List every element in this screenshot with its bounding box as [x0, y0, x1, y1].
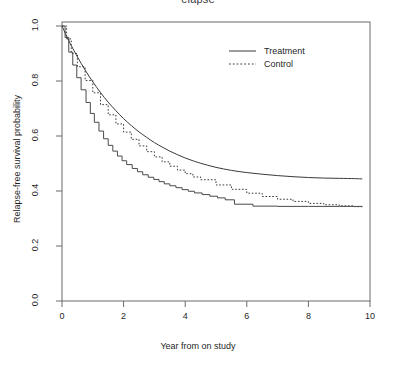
curve-control — [62, 26, 362, 207]
x-tick-label: 2 — [109, 311, 139, 321]
plot-border — [62, 22, 370, 301]
survival-plot-figure: elapse Relapse-free survival probability… — [0, 0, 396, 369]
x-tick-label: 0 — [47, 311, 77, 321]
y-axis-label: Relapse-free survival probability — [12, 59, 22, 259]
x-tick-label: 10 — [355, 311, 385, 321]
y-tick-label: 0.8 — [30, 67, 40, 93]
y-tick-label: 1.0 — [30, 12, 40, 38]
x-axis-label: Year from on study — [0, 341, 396, 351]
legend-label-control: Control — [264, 59, 293, 69]
x-tick-label: 4 — [170, 311, 200, 321]
curve-treatment — [62, 26, 362, 179]
legend-label-treatment: Treatment — [264, 46, 305, 56]
y-tick-label: 0.2 — [30, 232, 40, 258]
legend-keys — [229, 51, 256, 64]
x-tick-label: 6 — [232, 311, 262, 321]
y-tick-label: 0.0 — [30, 287, 40, 313]
y-tick-label: 0.4 — [30, 177, 40, 203]
y-tick-label: 0.6 — [30, 122, 40, 148]
data-curves — [62, 26, 362, 207]
x-tick-label: 8 — [293, 311, 323, 321]
